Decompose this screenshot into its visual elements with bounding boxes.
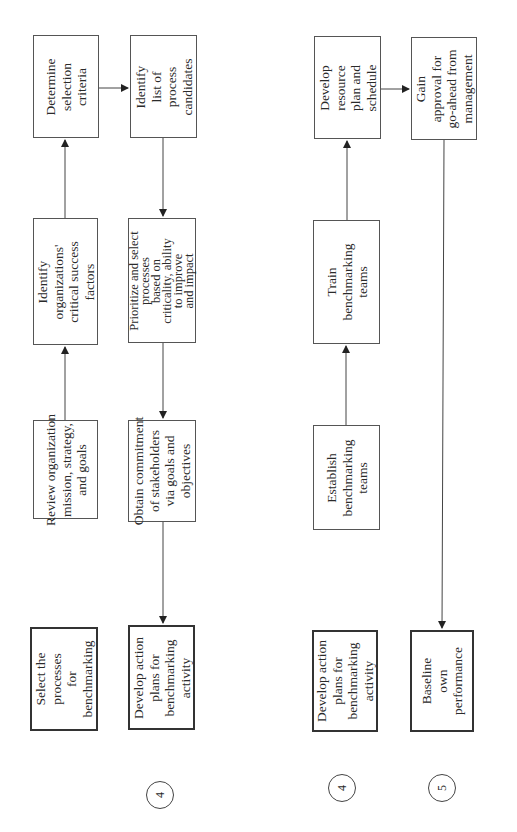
- box-label: Develop action plans for benchmarking ac…: [131, 636, 193, 718]
- box-label: Develop action plans for benchmarking ac…: [314, 640, 376, 722]
- step-number-5: 5: [428, 774, 456, 802]
- label-line: Baseline: [419, 647, 435, 715]
- label-line: mission, strategy,: [58, 414, 74, 526]
- label-line: activity: [361, 640, 377, 722]
- box-determine-selection-criteria: Determine selection criteria: [33, 35, 99, 138]
- label-line: via goals and: [162, 417, 178, 525]
- label-line: and impact: [184, 231, 195, 330]
- label-line: selection: [58, 58, 74, 115]
- label-line: candidates: [179, 58, 195, 115]
- label-line: organizations': [50, 241, 66, 322]
- label-line: plan and: [348, 64, 364, 111]
- box-label: Obtain commitment of stakeholders via go…: [131, 417, 193, 525]
- box-establish-teams: Establish benchmarking teams: [313, 425, 380, 530]
- step-number-label: 5: [435, 785, 450, 791]
- box-label: Select the processes for benchmarking: [33, 640, 95, 717]
- box-identify-process-candidates: Identify list of process candidates: [130, 35, 197, 138]
- label-line: activity: [177, 636, 193, 718]
- label-line: critical success: [66, 241, 82, 322]
- label-line: Train: [323, 243, 339, 320]
- box-label: Develop resource plan and schedule: [317, 64, 379, 111]
- label-line: benchmarking: [80, 640, 96, 717]
- box-gain-approval: Gain approval for go-ahead from manageme…: [411, 37, 477, 140]
- label-line: processes: [49, 640, 65, 717]
- box-label: Review organization mission, strategy, a…: [42, 414, 89, 526]
- box-obtain-commitment: Obtain commitment of stakeholders via go…: [128, 420, 196, 522]
- box-label: Baseline own performance: [419, 647, 466, 715]
- label-line: Develop action: [314, 640, 330, 722]
- box-label: Determine selection criteria: [43, 58, 90, 115]
- box-baseline-performance: Baseline own performance: [410, 630, 474, 732]
- label-line: Obtain commitment: [131, 417, 147, 525]
- label-line: criteria: [74, 58, 90, 115]
- box-label: Train benchmarking teams: [323, 243, 370, 320]
- label-line: process: [164, 58, 180, 115]
- box-select-processes: Select the processes for benchmarking: [30, 627, 98, 731]
- label-line: objectives: [178, 417, 194, 525]
- arrow-approval-to-baseline: [442, 140, 444, 628]
- label-line: benchmarking: [345, 640, 361, 722]
- box-label: Identify organizations' critical success…: [35, 241, 97, 322]
- label-line: plans for: [330, 640, 346, 722]
- label-line: Develop action: [131, 636, 147, 718]
- label-line: management: [460, 49, 476, 128]
- step-number-label: 4: [335, 785, 350, 791]
- label-line: resource: [332, 64, 348, 111]
- label-line: schedule: [363, 64, 379, 111]
- label-line: and goals: [73, 414, 89, 526]
- label-line: factors: [81, 241, 97, 322]
- box-develop-action-plans: Develop action plans for benchmarking ac…: [128, 625, 195, 730]
- label-line: Review organization: [42, 414, 58, 526]
- box-label: Identify list of process candidates: [133, 58, 195, 115]
- box-prioritize-select-processes: Prioritize and select processes based on…: [128, 218, 196, 343]
- box-develop-resource-plan: Develop resource plan and schedule: [314, 36, 381, 139]
- label-line: plans for: [146, 636, 162, 718]
- label-line: Identify: [35, 241, 51, 322]
- label-line: own: [434, 647, 450, 715]
- step-number-4-second: 4: [328, 774, 356, 802]
- step-number-label: 4: [153, 792, 168, 798]
- box-train-teams: Train benchmarking teams: [313, 220, 380, 344]
- label-line: performance: [450, 647, 466, 715]
- label-line: Develop: [317, 64, 333, 111]
- step-number-4: 4: [146, 781, 174, 809]
- label-line: Gain: [413, 49, 429, 128]
- label-line: list of: [148, 58, 164, 115]
- box-identify-critical-success-factors: Identify organizations' critical success…: [33, 218, 98, 345]
- label-line: benchmarking: [339, 243, 355, 320]
- box-review-organization: Review organization mission, strategy, a…: [33, 420, 98, 519]
- label-line: Identify: [133, 58, 149, 115]
- box-label: Gain approval for go-ahead from manageme…: [413, 49, 475, 128]
- label-line: Determine: [43, 58, 59, 115]
- label-line: of stakeholders: [147, 417, 163, 525]
- label-line: benchmarking: [162, 636, 178, 718]
- label-line: Establish: [323, 439, 339, 516]
- label-line: go-ahead from: [444, 49, 460, 128]
- label-line: benchmarking: [339, 439, 355, 516]
- label-line: Select the: [33, 640, 49, 717]
- label-line: approval for: [429, 49, 445, 128]
- box-label: Establish benchmarking teams: [323, 439, 370, 516]
- label-line: teams: [354, 439, 370, 516]
- label-line: teams: [354, 243, 370, 320]
- box-develop-action-plans-second: Develop action plans for benchmarking ac…: [312, 630, 378, 732]
- label-line: for: [64, 640, 80, 717]
- box-label: Prioritize and select processes based on…: [129, 231, 195, 330]
